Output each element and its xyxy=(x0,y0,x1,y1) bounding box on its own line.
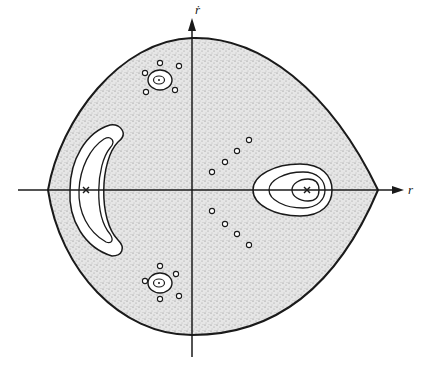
lower-chain-circle xyxy=(234,231,239,236)
lower-island-center-dot xyxy=(158,282,160,284)
lower-island xyxy=(148,273,172,293)
upper-chain-circle xyxy=(222,159,227,164)
lower-island-satellite xyxy=(173,271,178,276)
upper-island-satellite xyxy=(176,63,181,68)
upper-chain-circle xyxy=(209,169,214,174)
vertical-axis-arrowhead xyxy=(188,18,196,31)
lower-chain-circle xyxy=(209,208,214,213)
upper-chain-circle xyxy=(234,148,239,153)
lower-chain-circle xyxy=(246,242,251,247)
lower-island-satellite xyxy=(157,296,162,301)
upper-island-satellite xyxy=(142,70,147,75)
upper-island-satellite xyxy=(157,60,162,65)
upper-chain-circle xyxy=(246,137,251,142)
lower-island-satellite xyxy=(176,293,181,298)
lower-island-satellite xyxy=(142,278,147,283)
horizontal-axis-arrowhead xyxy=(392,186,404,194)
upper-island xyxy=(148,70,172,90)
vertical-axis-label: ṙ xyxy=(195,2,201,17)
upper-island-satellite xyxy=(143,89,148,94)
phase-space-diagram: r ṙ xyxy=(0,0,426,370)
upper-island-satellite xyxy=(172,87,177,92)
upper-island-center-dot xyxy=(158,79,160,81)
horizontal-axis-label: r xyxy=(408,182,414,197)
lower-chain-circle xyxy=(222,221,227,226)
lower-island-satellite xyxy=(157,263,162,268)
